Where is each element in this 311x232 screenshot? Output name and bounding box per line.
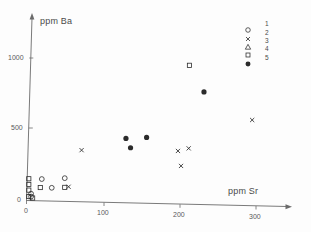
scatter-plot-figure: ppm Ba ppm Sr 0 500 1000 0 100 200 300 1…: [0, 0, 311, 232]
data-point-series-4: [63, 185, 67, 189]
open-triangle-icon: [243, 37, 257, 45]
cross-icon: [243, 29, 257, 37]
y-axis-line: [27, 18, 33, 201]
y-tick-label-0: 0: [17, 196, 21, 203]
y-tick-label-500: 500: [11, 124, 23, 131]
x-tick-label-0: 0: [24, 207, 28, 214]
data-point-series-2: [179, 164, 183, 168]
legend-label: 1: [265, 20, 269, 28]
data-point-series-2: [250, 118, 254, 122]
legend-item-4[interactable]: 4: [243, 45, 289, 53]
data-point-series-2: [187, 146, 191, 150]
data-point-series-5: [201, 89, 206, 94]
data-point-series-5: [144, 135, 149, 140]
y-axis-arrowhead: [30, 13, 35, 20]
legend-item-1[interactable]: 1: [243, 20, 289, 28]
legend-item-5[interactable]: 5: [243, 54, 289, 62]
legend: 12345: [243, 20, 289, 62]
data-point-series-1: [39, 177, 44, 182]
data-point-series-1: [49, 185, 54, 190]
legend-label: 4: [265, 45, 269, 53]
data-point-series-5: [123, 136, 128, 141]
data-point-series-1: [62, 176, 67, 181]
legend-label: 5: [265, 54, 269, 62]
x-axis-line: [27, 201, 288, 207]
legend-item-3[interactable]: 3: [243, 37, 289, 45]
data-point-series-4: [187, 63, 191, 67]
data-point-series-5: [128, 145, 133, 150]
legend-label: 3: [265, 37, 269, 45]
x-axis-title: ppm Sr: [228, 186, 258, 196]
x-tick-label-300: 300: [249, 213, 261, 220]
y-tick-label-1000: 1000: [8, 54, 24, 61]
x-axis-arrowhead: [286, 204, 293, 209]
filled-circle-icon: [243, 54, 257, 62]
open-circle-icon: [243, 20, 257, 28]
x-tick-label-200: 200: [173, 211, 185, 218]
y-axis-title: ppm Ba: [40, 16, 72, 26]
data-point-series-2: [176, 149, 180, 153]
x-tick-label-100: 100: [97, 209, 109, 216]
data-markers-group: [27, 63, 255, 200]
legend-item-2[interactable]: 2: [243, 28, 289, 36]
legend-label: 2: [265, 29, 269, 37]
data-point-series-2: [79, 148, 83, 152]
open-square-icon: [243, 45, 257, 53]
data-point-series-4: [38, 185, 42, 189]
